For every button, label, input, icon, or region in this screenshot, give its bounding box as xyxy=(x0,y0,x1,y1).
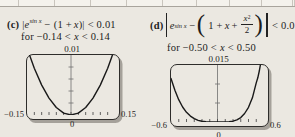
chart-d-ymax-label: 0.015 xyxy=(170,54,267,64)
function-exponent: sin x xyxy=(175,22,187,29)
domain-variable: x xyxy=(74,31,79,42)
table-cell xyxy=(163,0,197,6)
chart-c-canvas xyxy=(27,55,115,115)
chart-c-origin-label: 0 xyxy=(26,119,118,129)
fraction-denominator: 2 xyxy=(241,24,254,35)
chart-c-xmax-label: 0.15 xyxy=(121,109,136,119)
textbook-figure-page: (c)|esin x−(1 +x)|< 0.01 for −0.14 <x< 0… xyxy=(0,0,295,137)
panel-d-domain: for −0.50 <x< 0.50 xyxy=(167,42,256,53)
chart-c-xmin-label: −0.15 xyxy=(0,109,24,119)
panel-c-inequality: (c)|esin x−(1 +x)|< 0.01 xyxy=(7,17,116,30)
fraction-numerator: x2 xyxy=(242,14,251,24)
minus-sign: − xyxy=(190,20,196,31)
minus-sign: − xyxy=(45,19,51,30)
table-cell xyxy=(197,0,230,6)
big-paren-close: ) xyxy=(254,13,263,36)
chart-d-xmax-label: 0.6 xyxy=(270,120,281,130)
abs-bar-close: | xyxy=(82,19,84,30)
domain-pre: for −0.14 < xyxy=(21,31,71,42)
cropped-table-row xyxy=(0,0,295,7)
panel-d-label: (d) xyxy=(150,20,163,31)
fraction-x-squared-over-2: x2 2 xyxy=(241,14,254,35)
domain-pre: for −0.50 < xyxy=(167,42,217,53)
abs-bar-open xyxy=(166,13,167,37)
table-cell xyxy=(230,0,262,6)
table-cell xyxy=(127,0,163,6)
domain-variable: x xyxy=(220,42,225,53)
chart-d-xmin-label: −0.6 xyxy=(145,120,167,130)
function-exponent: sin x xyxy=(29,17,41,24)
chart-d-canvas xyxy=(171,65,264,122)
domain-post: < 0.14 xyxy=(82,31,110,42)
table-cell xyxy=(91,0,127,6)
chart-d-plot xyxy=(170,64,269,127)
table-cell xyxy=(262,0,293,6)
table-cell xyxy=(19,0,55,6)
table-cell xyxy=(55,0,91,6)
comparison: < 0.01 xyxy=(272,20,295,31)
comparison: < 0.01 xyxy=(88,19,116,30)
variable-x: x xyxy=(225,20,230,31)
fraction-num-exponent: 2 xyxy=(248,13,251,19)
panel-d-inequality: (d) esin x − ( 1 + x + x2 2 ) < 0.01 xyxy=(150,11,295,39)
polynomial-open: (1 + xyxy=(54,19,72,30)
inner-plus: + xyxy=(232,20,238,31)
panel-c-domain: for −0.14 <x< 0.14 xyxy=(21,31,110,42)
table-cell xyxy=(293,0,295,6)
table-cell xyxy=(0,0,19,6)
chart-c-plot xyxy=(26,54,120,120)
panel-c-label: (c) xyxy=(7,19,19,30)
chart-c-ymax-label: 0.01 xyxy=(26,44,118,54)
inner-pre: 1 + xyxy=(208,20,222,31)
chart-d-origin-label: 0 xyxy=(170,130,267,137)
big-paren-open: ( xyxy=(197,13,206,36)
abs-bar-close xyxy=(266,13,267,37)
domain-post: < 0.50 xyxy=(228,42,256,53)
